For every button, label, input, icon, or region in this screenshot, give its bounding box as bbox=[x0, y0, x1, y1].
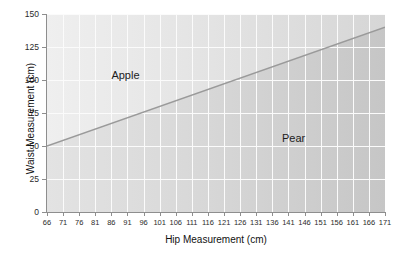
x-axis-tick-label: 86 bbox=[107, 218, 115, 227]
x-axis-tick-label: 66 bbox=[43, 218, 51, 227]
x-axis-tick-label: 121 bbox=[218, 218, 231, 227]
x-axis-tick bbox=[160, 212, 161, 216]
x-axis-tick bbox=[111, 212, 112, 216]
x-axis-tick-label: 116 bbox=[202, 218, 214, 227]
x-axis-tick-label: 156 bbox=[330, 218, 343, 227]
divider-line bbox=[47, 14, 385, 212]
x-axis-tick-label: 81 bbox=[91, 218, 99, 227]
x-axis-tick-label: 161 bbox=[347, 218, 360, 227]
x-axis-tick-label: 106 bbox=[169, 218, 182, 227]
plot-area bbox=[47, 14, 385, 212]
x-axis-tick-label: 146 bbox=[298, 218, 311, 227]
x-axis-tick bbox=[79, 212, 80, 216]
x-axis-tick bbox=[208, 212, 209, 216]
x-axis-tick bbox=[224, 212, 225, 216]
y-axis-tick bbox=[42, 113, 47, 114]
x-axis-tick-label: 151 bbox=[314, 218, 327, 227]
x-axis-tick-label: 171 bbox=[379, 218, 392, 227]
x-axis-tick bbox=[288, 212, 289, 216]
x-axis-tick-label: 101 bbox=[153, 218, 166, 227]
x-axis-tick bbox=[305, 212, 306, 216]
x-axis-tick-label: 111 bbox=[186, 218, 197, 227]
x-axis-tick bbox=[47, 212, 48, 216]
x-axis-tick bbox=[353, 212, 354, 216]
y-axis-tick bbox=[42, 14, 47, 15]
x-axis-tick bbox=[369, 212, 370, 216]
y-axis-tick bbox=[42, 179, 47, 180]
region-label-pear: Pear bbox=[282, 132, 305, 144]
x-axis-tick-label: 91 bbox=[123, 218, 131, 227]
y-axis-tick bbox=[42, 80, 47, 81]
x-axis-tick-label: 71 bbox=[59, 218, 67, 227]
x-axis-tick bbox=[337, 212, 338, 216]
x-axis-line bbox=[46, 212, 385, 213]
x-axis-tick bbox=[385, 212, 386, 216]
x-axis-tick-label: 126 bbox=[234, 218, 247, 227]
x-axis-tick-label: 141 bbox=[282, 218, 295, 227]
x-axis-tick bbox=[176, 212, 177, 216]
x-axis-tick-label: 76 bbox=[75, 218, 83, 227]
x-axis-tick bbox=[321, 212, 322, 216]
region-label-apple: Apple bbox=[111, 69, 139, 81]
y-axis-title: Waist Measurement (cm) bbox=[25, 29, 36, 209]
y-axis-tick-label: 0 bbox=[34, 207, 39, 217]
x-axis-tick-label: 131 bbox=[250, 218, 263, 227]
x-axis-tick bbox=[256, 212, 257, 216]
chart-container: Apple Pear 0255075100125150 667176818691… bbox=[0, 0, 401, 255]
x-axis-tick bbox=[192, 212, 193, 216]
x-axis-tick-label: 166 bbox=[363, 218, 376, 227]
x-axis-tick bbox=[95, 212, 96, 216]
x-axis-tick bbox=[272, 212, 273, 216]
x-axis-tick bbox=[63, 212, 64, 216]
x-axis-tick-label: 96 bbox=[139, 218, 147, 227]
x-axis-title: Hip Measurement (cm) bbox=[47, 234, 385, 245]
x-axis-tick bbox=[127, 212, 128, 216]
y-axis-tick-label: 150 bbox=[25, 9, 39, 19]
x-axis-tick-label: 136 bbox=[266, 218, 279, 227]
x-axis-tick bbox=[144, 212, 145, 216]
y-axis-tick bbox=[42, 146, 47, 147]
y-axis-tick bbox=[42, 47, 47, 48]
x-axis-tick bbox=[240, 212, 241, 216]
